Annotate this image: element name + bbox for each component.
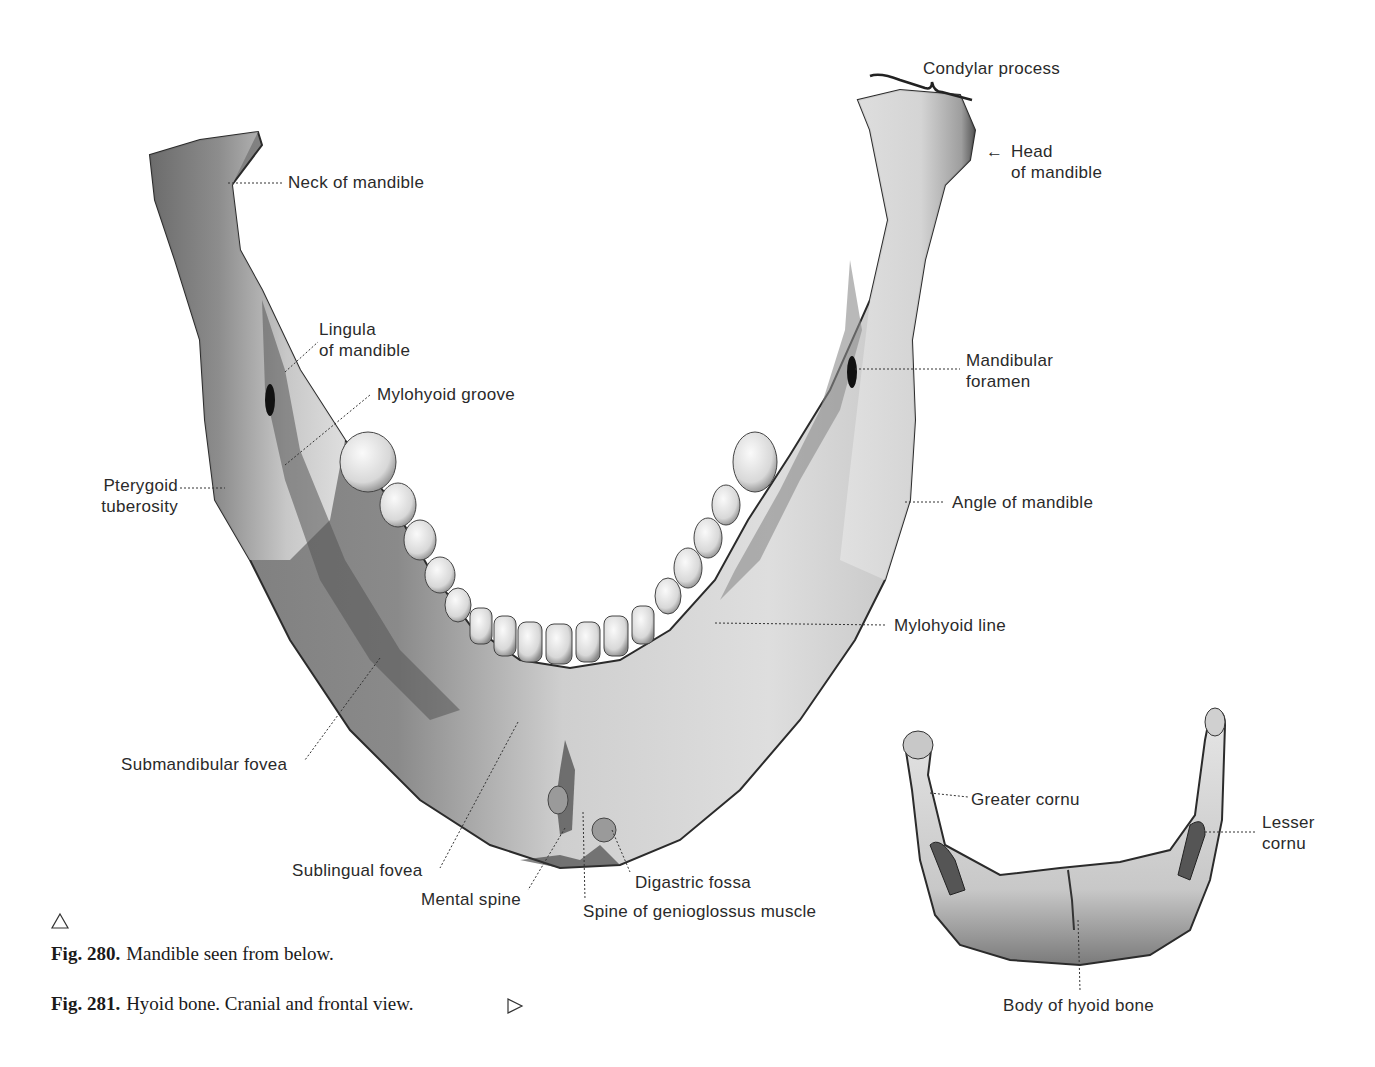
label-mandibular-foramen: Mandibular foramen bbox=[966, 350, 1053, 392]
triangle-up-icon bbox=[50, 912, 70, 930]
figure-number: Fig. 280. bbox=[51, 943, 120, 964]
caption-fig-281: Fig. 281.Hyoid bone. Cranial and frontal… bbox=[51, 993, 414, 1015]
label-lesser-cornu: Lesser cornu bbox=[1262, 812, 1315, 854]
figure-caption-text: Hyoid bone. Cranial and frontal view. bbox=[126, 993, 413, 1014]
label-neck-of-mandible: Neck of mandible bbox=[288, 172, 424, 193]
label-condylar-process: Condylar process bbox=[923, 58, 1060, 79]
label-mental-spine: Mental spine bbox=[421, 889, 521, 910]
label-submandibular-fovea: Submandibular fovea bbox=[121, 754, 287, 775]
label-spine-of-genioglossus: Spine of genioglossus muscle bbox=[583, 901, 816, 922]
caption-fig-280: Fig. 280.Mandible seen from below. bbox=[51, 943, 334, 965]
label-lingula-of-mandible: Lingula of mandible bbox=[319, 319, 410, 361]
mandible-illustration bbox=[150, 90, 975, 868]
hyoid-illustration bbox=[903, 708, 1225, 965]
label-sublingual-fovea: Sublingual fovea bbox=[292, 860, 423, 881]
triangle-right-icon bbox=[505, 996, 525, 1016]
label-pterygoid-tuberosity: Pterygoid tuberosity bbox=[92, 475, 178, 517]
figure-number: Fig. 281. bbox=[51, 993, 120, 1014]
label-body-of-hyoid-bone: Body of hyoid bone bbox=[1003, 995, 1154, 1016]
label-angle-of-mandible: Angle of mandible bbox=[952, 492, 1093, 513]
arrow-left-icon: ← bbox=[986, 141, 1003, 162]
label-digastric-fossa: Digastric fossa bbox=[635, 872, 751, 893]
atlas-page: Condylar process ← Head of mandible Neck… bbox=[0, 0, 1375, 1067]
label-head-of-mandible: Head of mandible bbox=[1011, 141, 1102, 183]
label-mylohyoid-line: Mylohyoid line bbox=[894, 615, 1006, 636]
label-mylohyoid-groove: Mylohyoid groove bbox=[377, 384, 515, 405]
figure-caption-text: Mandible seen from below. bbox=[126, 943, 334, 964]
label-greater-cornu: Greater cornu bbox=[971, 789, 1080, 810]
